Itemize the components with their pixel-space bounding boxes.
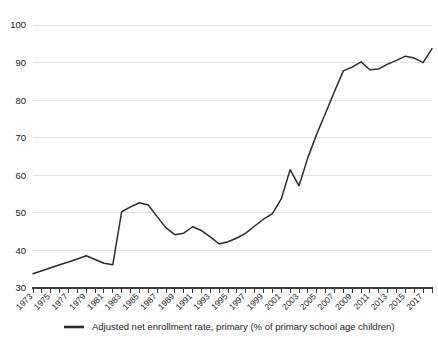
legend-label-0: Adjusted net enrollment rate, primary (%…	[92, 321, 395, 332]
x-axis-tick-label-2017: 2017	[404, 291, 425, 312]
x-axis-tick-label-1989: 1989	[156, 291, 177, 312]
x-axis-tick-label-1973: 1973	[14, 291, 35, 312]
y-axis-tick-label-60: 60	[15, 170, 26, 181]
x-axis-tick-label-1977: 1977	[49, 291, 70, 312]
x-axis-tick-label-2013: 2013	[369, 291, 390, 312]
y-axis-tick-label-40: 40	[15, 245, 26, 256]
y-axis-tick-label-80: 80	[15, 95, 26, 106]
y-axis-tick-label-90: 90	[15, 57, 26, 68]
legend-group: Adjusted net enrollment rate, primary (%…	[64, 321, 395, 332]
y-axis-tick-label-100: 100	[10, 19, 26, 30]
y-axis-tick-label-70: 70	[15, 132, 26, 143]
x-axis-tick-label-1987: 1987	[138, 291, 159, 312]
x-axis-tick-label-1991: 1991	[174, 291, 195, 312]
line-chart: 30405060708090100 1973197519771979198119…	[0, 0, 438, 338]
x-axis-tick-label-2015: 2015	[386, 291, 407, 312]
series-line-0	[33, 49, 432, 274]
x-axis-tick-label-2003: 2003	[280, 291, 301, 312]
y-axis-tick-label-50: 50	[15, 207, 26, 218]
x-axis-tick-label-2009: 2009	[333, 291, 354, 312]
x-axis-tick-label-2007: 2007	[315, 291, 336, 312]
x-axis-line-group	[32, 288, 433, 293]
x-axis-tick-label-2005: 2005	[298, 291, 319, 312]
x-axis-tick-label-1993: 1993	[191, 291, 212, 312]
x-axis-tick-label-2011: 2011	[351, 291, 371, 311]
x-axis-tick-label-1975: 1975	[32, 291, 53, 312]
data-series-group	[33, 49, 432, 274]
x-axis-tick-label-1985: 1985	[120, 291, 141, 312]
x-axis-tick-label-1999: 1999	[244, 291, 265, 312]
gridlines-group	[33, 25, 432, 250]
x-axis-labels-group: 1973197519771979198119831985198719891991…	[14, 291, 425, 312]
x-axis-tick-label-1983: 1983	[103, 291, 124, 312]
y-axis-tick-label-30: 30	[15, 282, 26, 293]
chart-canvas: 30405060708090100 1973197519771979198119…	[0, 0, 438, 338]
x-axis-tick-label-1995: 1995	[209, 291, 230, 312]
x-axis-tick-label-2001: 2001	[262, 291, 283, 312]
x-axis-tick-label-1997: 1997	[227, 291, 248, 312]
x-axis-tick-label-1979: 1979	[67, 291, 88, 312]
y-axis-labels-group: 30405060708090100	[10, 19, 26, 293]
x-axis-tick-label-1981: 1981	[85, 291, 106, 312]
